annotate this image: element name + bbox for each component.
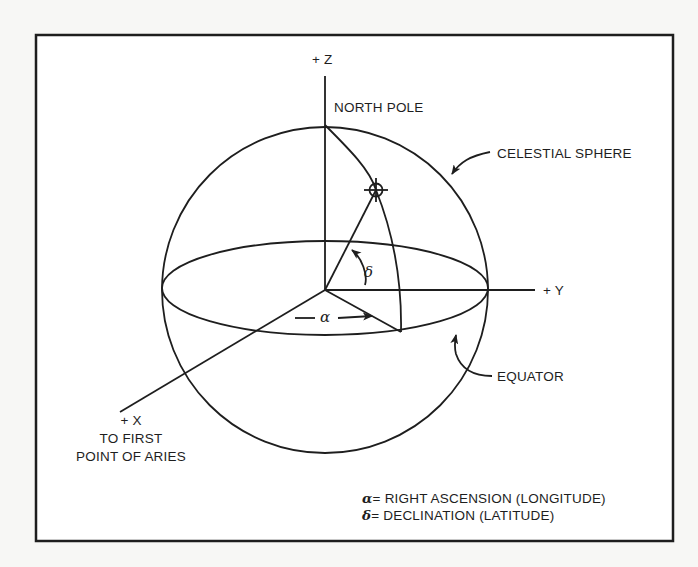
legend-alpha-symbol: α <box>362 490 373 506</box>
equator-label: EQUATOR <box>497 368 564 385</box>
y-axis-label: + Y <box>543 282 564 299</box>
legend-item-delta: δ= DECLINATION (LATITUDE) <box>362 507 606 524</box>
legend: α= RIGHT ASCENSION (LONGITUDE) δ= DECLIN… <box>362 490 606 524</box>
delta-symbol: δ <box>364 263 373 281</box>
x-axis-sublabel-1: TO FIRST <box>66 430 196 447</box>
north-pole-label: NORTH POLE <box>334 99 424 116</box>
legend-delta-text: = DECLINATION (LATITUDE) <box>371 508 554 523</box>
celestial-sphere-label: CELESTIAL SPHERE <box>497 145 632 162</box>
z-axis-label: + Z <box>312 51 332 68</box>
x-axis-sublabel-2: POINT OF ARIES <box>56 448 206 465</box>
legend-alpha-text: = RIGHT ASCENSION (LONGITUDE) <box>373 491 606 506</box>
diagram-canvas: δ α <box>0 0 698 567</box>
legend-delta-symbol: δ <box>362 507 371 523</box>
x-axis-label: + X <box>66 412 196 429</box>
celestial-sphere-figure: δ α + Z NORTH POLE CELESTIAL SPHERE + Y … <box>0 0 698 567</box>
legend-item-alpha: α= RIGHT ASCENSION (LONGITUDE) <box>362 490 606 507</box>
alpha-symbol: α <box>320 308 330 326</box>
